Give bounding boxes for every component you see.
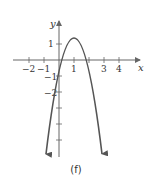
parabola-curve	[46, 38, 102, 154]
x-axis: −2 −1 1 3 4 x	[13, 57, 144, 74]
x-tick-label: 1	[71, 64, 77, 74]
x-axis-label: x	[138, 62, 144, 73]
figure-caption: (f)	[0, 164, 152, 175]
y-axis: 1 −1 −2 y	[44, 18, 62, 157]
x-tick-label: −2	[22, 64, 35, 74]
y-tick-label: −1	[44, 72, 57, 82]
x-tick-label: 3	[101, 64, 107, 74]
y-tick-label: 1	[48, 39, 54, 49]
x-tick-label: 4	[116, 64, 122, 74]
y-axis-label: y	[49, 18, 56, 29]
parabola-chart: −2 −1 1 3 4 x 1 −1 −2 y	[0, 0, 152, 189]
